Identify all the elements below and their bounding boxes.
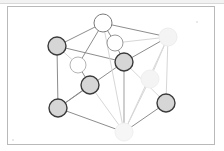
figure-page	[0, 0, 224, 151]
lattice-atom-corner-top-back	[94, 14, 112, 32]
scan-speck	[12, 139, 14, 141]
scan-speck	[196, 21, 198, 23]
lattice-atom-corner-left-upper	[48, 37, 66, 55]
lattice-atom-corner-right-lower	[157, 94, 175, 112]
lattice-atom-corner-right-upper	[159, 28, 177, 46]
lattice-atom-face-top	[107, 35, 123, 51]
lattice-atom-face-front	[81, 76, 99, 94]
lattice-edge	[166, 37, 168, 103]
lattice-atom-corner-left-lower	[49, 99, 67, 117]
lattice-diagram	[0, 0, 224, 151]
lattice-atom-corner-bottom-front	[115, 123, 133, 141]
lattice-node-layer	[48, 14, 177, 141]
lattice-atom-face-left	[70, 57, 86, 73]
lattice-edge	[58, 108, 124, 132]
lattice-atom-face-back	[115, 53, 133, 71]
lattice-atom-face-right	[141, 70, 159, 88]
